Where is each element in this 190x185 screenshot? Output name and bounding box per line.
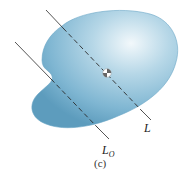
axis-LO-label-main: L (102, 143, 109, 157)
rigid-body (32, 10, 178, 127)
center-of-mass-icon (103, 69, 111, 77)
axis-L-label: L (144, 122, 151, 134)
axis-LO-solid-bottom (98, 128, 109, 139)
axis-L-label-text: L (144, 121, 151, 135)
axis-LO-label-subscript: O (109, 150, 115, 159)
figure-caption: (c) (94, 158, 106, 169)
axis-L-solid-top (46, 10, 63, 28)
axis-L-solid-bottom (142, 111, 151, 120)
